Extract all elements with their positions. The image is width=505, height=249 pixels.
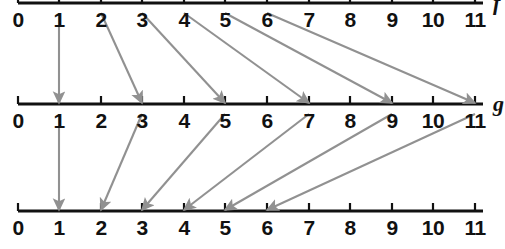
tick-label-bottom-9: 9 bbox=[386, 217, 397, 238]
axis-name-middle: g bbox=[493, 93, 504, 115]
tick-label-bottom-0: 0 bbox=[12, 217, 23, 238]
tick-label-bottom-7: 7 bbox=[303, 217, 314, 238]
axis-middle bbox=[18, 96, 483, 104]
tick-label-top-2: 2 bbox=[95, 9, 106, 30]
tick-label-bottom-11: 11 bbox=[464, 217, 485, 238]
tick-label-top-8: 8 bbox=[344, 9, 355, 30]
tick-label-bottom-4: 4 bbox=[178, 217, 189, 238]
tick-label-middle-11: 11 bbox=[464, 110, 485, 131]
tick-label-bottom-3: 3 bbox=[136, 217, 147, 238]
tick-label-top-4: 4 bbox=[178, 9, 189, 30]
tick-label-middle-9: 9 bbox=[386, 110, 397, 131]
arrow-top-4-to-middle-7 bbox=[184, 13, 309, 103]
tick-label-top-9: 9 bbox=[386, 9, 397, 30]
tick-label-top-1: 1 bbox=[53, 9, 64, 30]
arrow-middle-7-to-bottom-4 bbox=[184, 114, 309, 210]
axis-top bbox=[18, 0, 483, 3]
tick-label-bottom-1: 1 bbox=[53, 217, 64, 238]
tick-label-bottom-6: 6 bbox=[261, 217, 272, 238]
axis-name-top: f bbox=[493, 0, 500, 14]
tick-label-bottom-10: 10 bbox=[422, 217, 444, 238]
tick-label-top-0: 0 bbox=[12, 9, 23, 30]
tick-label-middle-1: 1 bbox=[53, 110, 64, 131]
tick-label-top-5: 5 bbox=[219, 9, 230, 30]
tick-label-middle-5: 5 bbox=[219, 110, 230, 131]
tick-label-middle-10: 10 bbox=[422, 110, 444, 131]
tick-label-middle-7: 7 bbox=[303, 110, 314, 131]
tick-label-middle-3: 3 bbox=[136, 110, 147, 131]
tick-label-middle-2: 2 bbox=[95, 110, 106, 131]
tick-label-top-7: 7 bbox=[303, 9, 314, 30]
tick-label-middle-8: 8 bbox=[344, 110, 355, 131]
axis-bottom bbox=[18, 203, 483, 211]
tick-label-top-10: 10 bbox=[422, 9, 444, 30]
tick-label-bottom-5: 5 bbox=[219, 217, 230, 238]
tick-label-middle-6: 6 bbox=[261, 110, 272, 131]
axes-layer bbox=[18, 0, 483, 211]
tick-label-top-11: 11 bbox=[464, 9, 485, 30]
tick-label-bottom-2: 2 bbox=[95, 217, 106, 238]
tick-label-middle-4: 4 bbox=[178, 110, 189, 131]
tick-label-bottom-8: 8 bbox=[344, 217, 355, 238]
tick-label-top-3: 3 bbox=[136, 9, 147, 30]
tick-label-top-6: 6 bbox=[261, 9, 272, 30]
number-line-diagram: 01234567891011f01234567891011g0123456789… bbox=[0, 0, 505, 249]
tick-label-middle-0: 0 bbox=[12, 110, 23, 131]
